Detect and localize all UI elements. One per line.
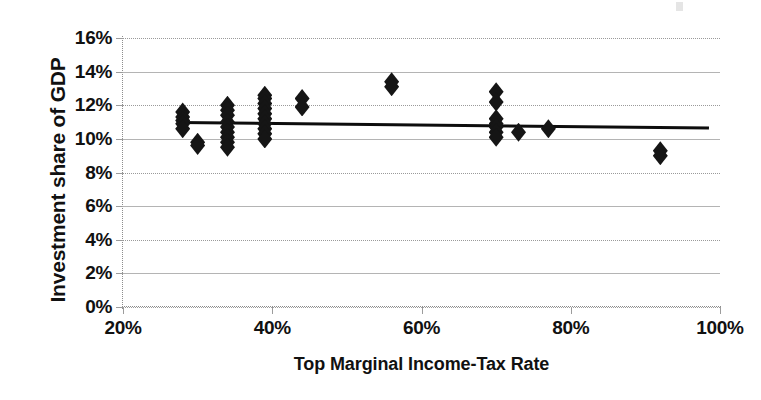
y-tick-mark [116,72,123,73]
gridline-y [123,38,720,39]
y-tick-label: 4% [48,230,112,249]
y-tick-mark [116,173,123,174]
x-tick-mark [720,307,721,314]
x-tick-mark [123,307,124,314]
y-tick-label: 10% [48,129,112,148]
x-tick-label: 20% [78,317,168,339]
x-tick-mark [422,307,423,314]
y-tick-mark [116,240,123,241]
data-point-marker [489,92,504,111]
gridline-y [123,105,720,106]
x-tick-label: 80% [526,317,616,339]
x-tick-mark [272,307,273,314]
y-tick-mark [116,206,123,207]
gridline-y [123,273,720,274]
y-tick-mark [116,273,123,274]
x-tick-label: 40% [227,317,317,339]
y-tick-label: 2% [48,263,112,282]
plot-area [123,38,720,307]
x-tick-label: 60% [377,317,467,339]
x-tick-mark [571,307,572,314]
y-tick-mark [116,139,123,140]
gridline-y [123,72,720,73]
y-tick-mark [116,38,123,39]
top-artifact [676,2,683,11]
data-point-marker [541,119,556,138]
y-tick-label: 14% [48,62,112,81]
gridline-y [123,240,720,241]
y-tick-mark [116,307,123,308]
gridline-y [123,173,720,174]
y-tick-label: 12% [48,95,112,114]
y-tick-label: 6% [48,196,112,215]
scatter-chart: Investment share of GDP 0%2%4%6%8%10%12%… [0,0,761,400]
gridline-y [123,206,720,207]
y-tick-label: 0% [48,297,112,316]
y-tick-mark [116,105,123,106]
x-axis-title: Top Marginal Income-Tax Rate [123,354,720,375]
y-tick-label: 8% [48,163,112,182]
y-tick-label: 16% [48,28,112,47]
x-tick-label: 100% [675,317,761,339]
gridline-y [123,139,720,140]
y-axis-tick-labels: 0%2%4%6%8%10%12%14%16% [48,0,112,400]
